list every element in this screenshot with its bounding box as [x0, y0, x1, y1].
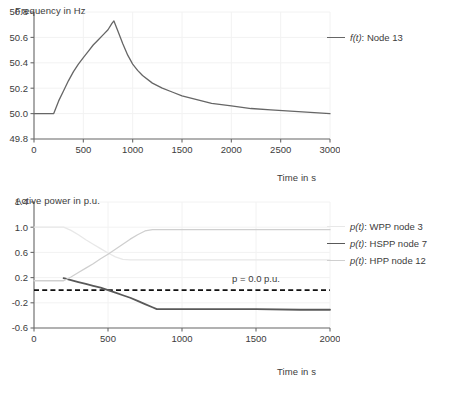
legend-line-swatch [327, 226, 345, 227]
chart-panel-active-power: Active power in p.u. -0.6-0.20.20.61.01.… [0, 190, 449, 393]
x-tick-label: 2500 [270, 144, 291, 155]
active-power-x-axis-title: Time in s [277, 366, 316, 377]
frequency-x-axis-title: Time in s [277, 172, 316, 183]
x-tick-label: 0 [31, 333, 36, 344]
legend-line-swatch [327, 260, 345, 261]
legend-item-label: p(t): HPP node 12 [350, 255, 426, 266]
legend-line-swatch [327, 37, 345, 38]
legend-item-label: f(t): Node 13 [350, 32, 403, 43]
y-tick-label: 1.0 [15, 222, 28, 233]
x-tick-label: 1500 [171, 144, 192, 155]
frequency-plot: 49.850.050.250.450.650.80500100015002000… [0, 0, 340, 165]
y-tick-label: 0.2 [15, 272, 28, 283]
x-tick-label: 1000 [122, 144, 143, 155]
x-tick-label: 2000 [319, 333, 340, 344]
active-power-plot: -0.6-0.20.20.61.01.40500100015002000p = … [0, 190, 340, 358]
x-tick-label: 2000 [221, 144, 242, 155]
series-line-1 [64, 278, 330, 310]
legend-item[interactable]: p(t): HPP node 12 [327, 252, 427, 269]
figure-root: Frequency in Hz 49.850.050.250.450.650.8… [0, 0, 449, 393]
legend-item[interactable]: f(t): Node 13 [327, 29, 403, 46]
y-tick-label: 0.6 [15, 247, 28, 258]
x-tick-label: 1000 [171, 333, 192, 344]
y-tick-label: 50.0 [10, 108, 29, 119]
x-tick-label: 3000 [319, 144, 340, 155]
y-tick-label: -0.2 [12, 297, 28, 308]
x-tick-label: 500 [100, 333, 116, 344]
active-power-y-axis-title: Active power in p.u. [15, 195, 100, 206]
legend-item-label: p(t): HSPP node 7 [350, 238, 427, 249]
y-tick-label: 50.2 [10, 83, 29, 94]
y-tick-label: 50.6 [10, 32, 29, 43]
chart-panel-frequency: Frequency in Hz 49.850.050.250.450.650.8… [0, 0, 449, 193]
legend-item[interactable]: p(t): HSPP node 7 [327, 235, 427, 252]
x-tick-label: 500 [75, 144, 91, 155]
frequency-legend: f(t): Node 13 [327, 29, 403, 46]
legend-line-swatch [327, 243, 345, 244]
x-tick-label: 1500 [245, 333, 266, 344]
frequency-y-axis-title: Frequency in Hz [15, 5, 86, 16]
active-power-legend: p(t): WPP node 3p(t): HSPP node 7p(t): H… [327, 218, 427, 269]
y-tick-label: 49.8 [10, 133, 29, 144]
y-tick-label: 50.4 [10, 57, 29, 68]
legend-item[interactable]: p(t): WPP node 3 [327, 218, 427, 235]
legend-item-label: p(t): WPP node 3 [350, 221, 423, 232]
y-tick-label: -0.6 [12, 322, 28, 333]
annotation-label: p = 0.0 p.u. [232, 273, 280, 284]
x-tick-label: 0 [31, 144, 36, 155]
